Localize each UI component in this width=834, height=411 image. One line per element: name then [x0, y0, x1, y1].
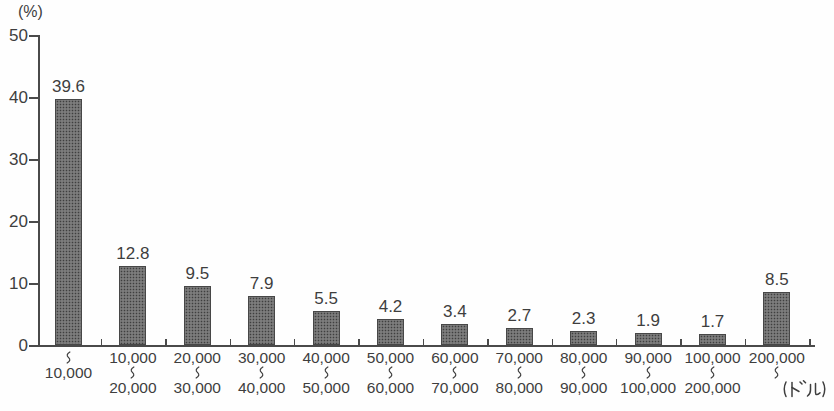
- y-axis-tick-label: 10: [2, 275, 28, 293]
- range-tilde-icon: [256, 366, 267, 379]
- bar-value-label: 7.9: [230, 275, 294, 293]
- x-category-line: 60,000: [367, 380, 414, 395]
- bar-100,000〜200,000: [699, 334, 726, 345]
- bar-value-label: 12.8: [101, 245, 165, 263]
- bar-60,000〜70,000: [441, 324, 468, 345]
- bar-value-label: 3.4: [423, 303, 487, 321]
- range-tilde-icon: [643, 366, 654, 379]
- x-axis-tick: [680, 339, 682, 345]
- y-axis-tick: [29, 97, 38, 99]
- x-category-label: 200,000: [745, 350, 809, 380]
- bar-value-label: 4.2: [359, 298, 423, 316]
- x-axis-tick: [101, 339, 103, 345]
- x-category-line: 30,000: [174, 380, 221, 395]
- x-category-line: 100,000: [684, 350, 740, 365]
- range-tilde-icon: [385, 366, 396, 379]
- bar-value-label: 1.7: [681, 313, 745, 331]
- x-category-label: 10,000: [36, 350, 100, 380]
- x-category-line: 100,000: [620, 380, 676, 395]
- x-category-line: 70,000: [496, 350, 543, 365]
- bar-value-label: 1.9: [616, 312, 680, 330]
- x-category-line: 40,000: [302, 350, 349, 365]
- range-tilde-icon: [449, 366, 460, 379]
- x-axis-tick: [809, 339, 811, 345]
- x-axis-tick: [487, 339, 489, 345]
- plot-area: 0102030405039.610,00012.810,00020,0009.5…: [0, 0, 834, 411]
- x-category-line: 20,000: [174, 350, 221, 365]
- bar-80,000〜90,000: [570, 331, 597, 345]
- x-category-line: 80,000: [560, 350, 607, 365]
- bar-value-label: 2.7: [487, 307, 551, 325]
- x-category-line: 10,000: [109, 350, 156, 365]
- x-category-line: 80,000: [496, 380, 543, 395]
- x-category-line: 50,000: [302, 380, 349, 395]
- y-axis-tick: [29, 159, 38, 161]
- bar-30,000〜40,000: [248, 296, 275, 345]
- y-axis-tick: [29, 345, 38, 347]
- x-axis-tick: [423, 339, 425, 345]
- bar-value-label: 5.5: [294, 290, 358, 308]
- x-axis-tick: [616, 339, 618, 345]
- range-tilde-icon: [707, 366, 718, 379]
- x-category-label: 40,00050,000: [294, 350, 358, 395]
- x-category-label: 60,00070,000: [423, 350, 487, 395]
- x-axis-tick: [165, 339, 167, 345]
- x-category-line: 40,000: [238, 380, 285, 395]
- bar-200,000〜: [763, 292, 790, 345]
- x-category-line: 30,000: [238, 350, 285, 365]
- bar-90,000〜100,000: [635, 333, 662, 345]
- x-axis-tick: [358, 339, 360, 345]
- y-axis-tick: [29, 221, 38, 223]
- x-category-label: 90,000100,000: [616, 350, 680, 395]
- range-tilde-icon: [321, 366, 332, 379]
- x-category-label: 10,00020,000: [101, 350, 165, 395]
- x-category-line: 90,000: [560, 380, 607, 395]
- bar-70,000〜80,000: [506, 328, 533, 345]
- bar-40,000〜50,000: [313, 311, 340, 345]
- y-axis-tick-label: 40: [2, 89, 28, 107]
- x-category-line: 70,000: [431, 380, 478, 395]
- y-axis-tick-label: 0: [2, 337, 28, 355]
- y-axis-tick-label: 30: [2, 151, 28, 169]
- y-axis-tick: [29, 283, 38, 285]
- x-axis-tick: [294, 339, 296, 345]
- bar-value-label: 8.5: [745, 271, 809, 289]
- bar-〜10,000: [55, 99, 82, 345]
- y-axis-tick-label: 20: [2, 213, 28, 231]
- x-axis-tick: [230, 339, 232, 345]
- range-tilde-icon: [578, 366, 589, 379]
- bar-20,000〜30,000: [184, 286, 211, 345]
- x-category-line: 50,000: [367, 350, 414, 365]
- x-category-line: 200,000: [684, 380, 740, 395]
- x-category-line: 90,000: [624, 350, 671, 365]
- x-category-line: 10,000: [45, 365, 92, 380]
- bar-value-label: 9.5: [165, 265, 229, 283]
- bar-50,000〜60,000: [377, 319, 404, 345]
- y-axis-tick-label: 50: [2, 27, 28, 45]
- x-category-line: 20,000: [109, 380, 156, 395]
- range-tilde-icon: [192, 366, 203, 379]
- x-category-label: 70,00080,000: [487, 350, 551, 395]
- bar-value-label: 39.6: [37, 78, 101, 96]
- y-axis-tick: [29, 35, 38, 37]
- x-axis-line: [38, 345, 815, 347]
- range-tilde-icon: [514, 366, 525, 379]
- x-category-label: 30,00040,000: [230, 350, 294, 395]
- x-axis-tick: [552, 339, 554, 345]
- bar-10,000〜20,000: [119, 266, 146, 345]
- x-category-line: 200,000: [749, 350, 805, 365]
- x-category-label: 20,00030,000: [165, 350, 229, 395]
- x-category-label: 50,00060,000: [358, 350, 422, 395]
- x-axis-tick: [745, 339, 747, 345]
- x-category-label: 100,000200,000: [680, 350, 744, 395]
- range-tilde-icon: [63, 351, 74, 364]
- x-category-line: 60,000: [431, 350, 478, 365]
- x-category-label: 80,00090,000: [552, 350, 616, 395]
- range-tilde-icon: [771, 366, 782, 379]
- bar-value-label: 2.3: [552, 310, 616, 328]
- range-tilde-icon: [127, 366, 138, 379]
- bar-chart: (%) 0102030405039.610,00012.810,00020,00…: [0, 0, 834, 411]
